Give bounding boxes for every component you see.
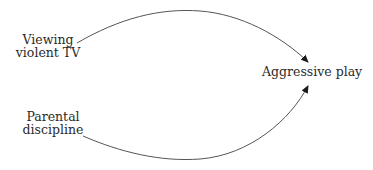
causal-diagram: Viewing violent TV Parental discipline A… bbox=[0, 0, 373, 170]
edge-parental-to-aggressive bbox=[83, 86, 308, 160]
node-aggressive-line-1: Aggressive play bbox=[262, 65, 357, 78]
edge-viewing-to-aggressive bbox=[77, 10, 308, 62]
node-viewing-line-2: violent TV bbox=[14, 46, 82, 59]
node-viewing-violent-tv: Viewing violent TV bbox=[14, 33, 82, 59]
node-parental-discipline: Parental discipline bbox=[22, 110, 84, 136]
node-parental-line-2: discipline bbox=[22, 123, 84, 136]
node-aggressive-play: Aggressive play bbox=[262, 65, 357, 78]
diagram-edges bbox=[0, 0, 373, 170]
